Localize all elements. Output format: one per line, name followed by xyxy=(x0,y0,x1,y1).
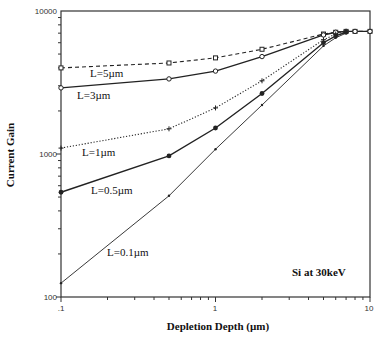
data-point-marker xyxy=(59,190,64,195)
data-point-marker xyxy=(60,282,62,284)
current-gain-chart: 10000 1000 100 .1 1 10 Depletion Depth (… xyxy=(0,0,381,340)
data-point-marker xyxy=(167,61,171,65)
data-point-marker xyxy=(59,86,63,90)
series-label-L5: L=5µm xyxy=(90,67,124,79)
series-l0.5m xyxy=(59,30,349,195)
data-point-marker xyxy=(368,29,372,33)
y-tick-1000: 1000 xyxy=(39,150,57,159)
series-label-L0.5: L=0.5µm xyxy=(91,184,133,196)
data-point-marker xyxy=(166,126,171,131)
data-point-marker xyxy=(214,148,216,150)
series-label-L1: L=1µm xyxy=(82,146,116,158)
x-tick-1: 1 xyxy=(213,304,218,313)
chart-canvas: 10000 1000 100 .1 1 10 Depletion Depth (… xyxy=(0,0,381,340)
data-point-marker xyxy=(260,54,264,58)
data-point-marker xyxy=(260,91,265,96)
data-point-marker xyxy=(59,66,63,70)
y-tick-10000: 10000 xyxy=(35,7,58,16)
data-point-marker xyxy=(213,126,218,131)
data-point-marker xyxy=(260,47,264,51)
x-axis-title: Depletion Depth (µm) xyxy=(167,320,270,333)
data-point-marker xyxy=(59,146,64,151)
data-point-marker xyxy=(167,153,172,158)
data-point-marker xyxy=(322,45,324,47)
data-point-marker xyxy=(261,104,263,106)
data-point-marker xyxy=(167,77,171,81)
data-point-marker xyxy=(213,69,217,73)
data-point-marker xyxy=(335,37,337,39)
data-point-marker xyxy=(345,32,347,34)
series-label-L3: L=3µm xyxy=(77,89,111,101)
annotation-si-30kev: Si at 30keV xyxy=(292,266,346,278)
data-point-marker xyxy=(321,33,325,37)
data-point-marker xyxy=(213,105,218,110)
y-axis-title: Current Gain xyxy=(4,123,16,187)
data-point-marker xyxy=(168,195,170,197)
series-label-L0.1: L=0.1µm xyxy=(107,246,149,258)
y-tick-100: 100 xyxy=(44,293,58,302)
data-point-marker xyxy=(214,56,218,60)
data-point-marker xyxy=(353,29,357,33)
x-tick-0.1: .1 xyxy=(58,304,65,313)
x-tick-10: 10 xyxy=(365,304,374,313)
